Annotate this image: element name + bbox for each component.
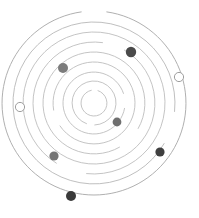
orbit-body-filled-icon <box>66 191 76 201</box>
orbit-body-filled-icon <box>49 151 58 160</box>
orbit-body-open-icon <box>174 72 183 81</box>
orbit-canvas <box>0 0 199 218</box>
orbit-body-filled-icon <box>155 147 164 156</box>
orbit-diagram <box>0 0 199 218</box>
orbit-body-filled-icon <box>126 47 136 57</box>
orbit-body-open-icon <box>15 102 24 111</box>
orbit-body-filled-icon <box>113 118 122 127</box>
orbit-body-filled-icon <box>58 63 68 73</box>
diagram-background <box>0 0 199 218</box>
